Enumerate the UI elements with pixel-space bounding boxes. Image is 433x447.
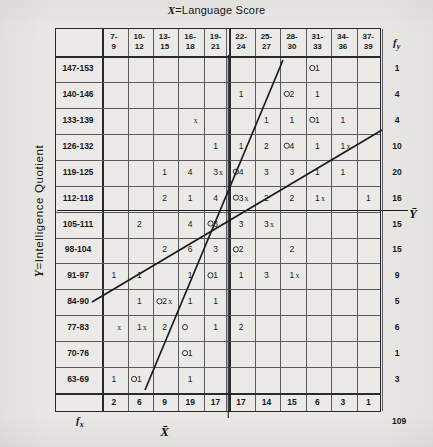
- grid-hline: [56, 134, 380, 135]
- cell-value: 1: [305, 167, 331, 177]
- grid-vline: [357, 29, 358, 411]
- cell-value: 4: [177, 219, 203, 229]
- column-header: 31- 33: [305, 32, 331, 51]
- y-axis-symbol: Y: [33, 270, 45, 278]
- column-total: 6: [127, 397, 153, 407]
- cell-value: 1: [177, 296, 203, 306]
- cell-value: 1: [177, 193, 203, 203]
- grid-hline: [56, 263, 380, 264]
- row-total: 10: [386, 141, 408, 151]
- column-header: 22- 24: [228, 32, 254, 51]
- row-header: 140-146: [55, 89, 101, 99]
- cell-value: 1: [101, 270, 127, 280]
- cell-value: 1: [203, 322, 229, 332]
- cell-value: 1: [330, 115, 356, 125]
- cell-value: 1: [101, 374, 127, 384]
- cell-value: 1: [305, 115, 331, 125]
- grid-hline: [56, 289, 380, 290]
- grid-hline: [56, 82, 380, 83]
- cell-value: 3: [254, 167, 280, 177]
- row-header: 77-83: [55, 322, 101, 332]
- cell-value: 2: [279, 244, 305, 254]
- row-total: 6: [386, 322, 408, 332]
- grid-hline: [56, 160, 380, 161]
- cell-value: 2: [127, 219, 153, 229]
- row-header: 98-104: [55, 244, 101, 254]
- cell-value: 1: [305, 63, 331, 73]
- cell-value: 6: [177, 244, 203, 254]
- row-total: 1: [386, 63, 408, 73]
- cell-value: 1: [254, 115, 280, 125]
- cell-value: 1: [127, 270, 153, 280]
- cell-value: 3: [228, 219, 254, 229]
- row-total: 1: [386, 348, 408, 358]
- row-total: 4: [386, 89, 408, 99]
- y-axis-title: Y=Intelligence Quotient: [33, 86, 45, 336]
- cell-value: 1: [228, 141, 254, 151]
- column-header: 28- 30: [279, 32, 305, 51]
- column-total: 9: [152, 397, 178, 407]
- fy-header: fy: [393, 36, 400, 51]
- y-mean-label: Ȳ: [409, 206, 417, 222]
- cell-value: 3: [228, 193, 254, 203]
- cell-value: 1: [305, 141, 331, 151]
- row-header: 105-111: [55, 219, 101, 229]
- cell-value: 3: [203, 244, 229, 254]
- column-total: 2: [101, 397, 127, 407]
- cell-value: 4: [177, 167, 203, 177]
- cell-value: 1: [177, 374, 203, 384]
- row-header: 63-69: [55, 374, 101, 384]
- cell-value: 1: [330, 167, 356, 177]
- cell-value: 1: [177, 270, 203, 280]
- cell-value: 1: [127, 296, 153, 306]
- grid-hline: [56, 238, 380, 239]
- grid-hline: [56, 108, 380, 109]
- cell-value: 2: [228, 322, 254, 332]
- row-total: 3: [386, 374, 408, 384]
- column-header: 13- 15: [152, 32, 178, 51]
- cell-value: 2: [152, 296, 178, 306]
- column-header: 7- 9: [101, 32, 127, 51]
- row-total: 16: [386, 193, 408, 203]
- cell-value: 2: [254, 141, 280, 151]
- row-header: 91-97: [55, 270, 101, 280]
- cell-value: 1: [177, 348, 203, 358]
- grid-hline: [56, 186, 380, 187]
- x-mean-label: X̄: [0, 424, 433, 440]
- grid-hline: [56, 315, 380, 316]
- column-total: 14: [254, 397, 280, 407]
- grid-vline: [382, 29, 383, 411]
- cell-value: 2: [152, 244, 178, 254]
- row-total: 4: [386, 115, 408, 125]
- column-header: 37- 39: [356, 32, 382, 51]
- cell-value: 2: [152, 193, 178, 203]
- column-header: 16- 18: [177, 32, 203, 51]
- grid-hline: [56, 341, 380, 342]
- grid-vline: [331, 29, 332, 411]
- column-total: 1: [356, 397, 382, 407]
- grid-vline: [280, 29, 281, 411]
- cell-value: 3: [254, 219, 280, 229]
- column-header: 19- 21: [203, 32, 229, 51]
- column-total: 19: [177, 397, 203, 407]
- cell-value: 2: [279, 193, 305, 203]
- column-total: 17: [203, 397, 229, 407]
- chart-title: X=Language Score: [0, 4, 433, 16]
- column-total: 3: [330, 397, 356, 407]
- cell-value: 1: [279, 270, 305, 280]
- cell-value: 3: [279, 167, 305, 177]
- row-header: 126-132: [55, 141, 101, 151]
- cell-value: 1: [127, 322, 153, 332]
- cell-value: 1: [152, 167, 178, 177]
- grid-vline: [306, 29, 307, 411]
- grid-hline: [56, 56, 380, 58]
- cell-value: 4: [228, 167, 254, 177]
- cell-value: 1: [305, 89, 331, 99]
- grid-hline-fx: [56, 393, 380, 395]
- row-total: 20: [386, 167, 408, 177]
- cell-value: 1: [330, 141, 356, 151]
- row-total: 15: [386, 219, 408, 229]
- cell-value: 1: [228, 89, 254, 99]
- grid-vline: [153, 29, 154, 411]
- row-total: 5: [386, 296, 408, 306]
